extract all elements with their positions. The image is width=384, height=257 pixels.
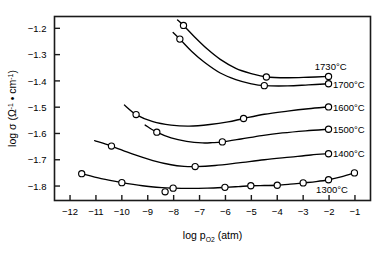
x-tick-label-4: −8 [168, 206, 179, 217]
data-point [325, 126, 331, 132]
series-label-1400C: 1400°C [333, 148, 365, 159]
y-tick-label-6: −1.8 [28, 181, 47, 192]
data-point [325, 81, 331, 87]
data-point [219, 139, 225, 145]
data-point [261, 83, 267, 89]
data-point [300, 180, 306, 186]
data-point [192, 163, 198, 169]
conductivity-vs-oxygen-partial-pressure-chart: −12−11−10−9−8−7−6−5−4−3−2−1−1.2−1.3−1.4−… [0, 0, 384, 257]
y-tick-label-4: −1.6 [28, 128, 47, 139]
data-point [222, 184, 228, 190]
data-point [248, 183, 254, 189]
data-point [108, 143, 114, 149]
x-tick-label-11: −1 [350, 206, 361, 217]
x-tick-label-9: −3 [298, 206, 309, 217]
y-tick-label-3: −1.5 [28, 102, 47, 113]
x-tick-label-8: −4 [272, 206, 283, 217]
series-label-1300C: 1300°C [316, 184, 348, 195]
y-tick-label-0: −1.2 [28, 23, 47, 34]
x-tick-label-0: −12 [62, 206, 78, 217]
series-label-1730C: 1730°C [315, 61, 347, 72]
x-tick-label-10: −2 [324, 206, 335, 217]
x-tick-label-3: −9 [142, 206, 153, 217]
data-point [325, 104, 331, 110]
data-point [154, 129, 160, 135]
data-point [240, 115, 246, 121]
data-point [133, 111, 139, 117]
chart-figure: −12−11−10−9−8−7−6−5−4−3−2−1−1.2−1.3−1.4−… [0, 0, 384, 257]
series-label-1500C: 1500°C [333, 124, 365, 135]
y-tick-label-2: −1.4 [28, 76, 47, 87]
data-point [119, 180, 125, 186]
x-tick-label-7: −5 [246, 206, 257, 217]
data-point [325, 151, 331, 157]
data-point [170, 185, 176, 191]
data-point [180, 22, 186, 28]
data-point [274, 182, 280, 188]
series-label-1700C: 1700°C [333, 79, 365, 90]
data-point [79, 171, 85, 177]
data-point [325, 73, 331, 79]
x-tick-label-2: −10 [114, 206, 130, 217]
x-tick-label-6: −6 [220, 206, 231, 217]
data-point [177, 36, 183, 42]
data-point [263, 74, 269, 80]
x-tick-label-1: −11 [88, 206, 103, 217]
y-tick-label-1: −1.3 [28, 49, 47, 60]
data-point [325, 177, 331, 183]
series-label-1600C: 1600°C [333, 102, 365, 113]
data-point [162, 189, 168, 195]
y-tick-label-5: −1.7 [28, 154, 47, 165]
x-tick-label-5: −7 [194, 206, 205, 217]
data-point [351, 170, 357, 176]
